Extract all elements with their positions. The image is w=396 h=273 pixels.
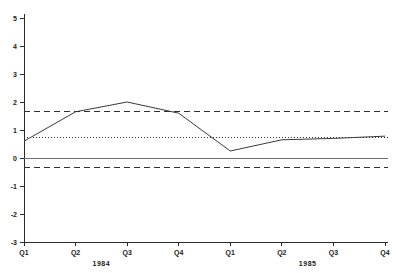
y-tick-label: -1 — [11, 183, 17, 190]
plot-area: 543210-1-2-3Q1Q2Q3Q4Q1Q2Q3Q419841985 — [0, 0, 396, 273]
series-line-observed — [24, 102, 385, 151]
x-tick-label: Q2 — [277, 249, 286, 257]
y-tick-label: 4 — [13, 43, 17, 50]
x-tick-label: Q1 — [19, 249, 28, 257]
line-chart: 543210-1-2-3Q1Q2Q3Q4Q1Q2Q3Q419841985 — [0, 0, 396, 273]
x-group-label: 1984 — [93, 260, 111, 267]
x-tick-label: Q4 — [380, 249, 389, 257]
y-tick-label: 5 — [13, 15, 17, 22]
y-tick-label: 1 — [13, 127, 17, 134]
x-group-label: 1985 — [299, 260, 317, 267]
y-tick-label: -2 — [11, 211, 17, 218]
y-tick-label: 2 — [13, 99, 17, 106]
x-tick-label: Q3 — [122, 249, 131, 257]
y-tick-label: 0 — [13, 155, 17, 162]
y-tick-label: -3 — [11, 239, 17, 246]
x-tick-label: Q4 — [174, 249, 183, 257]
x-tick-label: Q1 — [226, 249, 235, 257]
y-tick-label: 3 — [13, 71, 17, 78]
x-tick-label: Q2 — [71, 249, 80, 257]
x-tick-label: Q3 — [329, 249, 338, 257]
